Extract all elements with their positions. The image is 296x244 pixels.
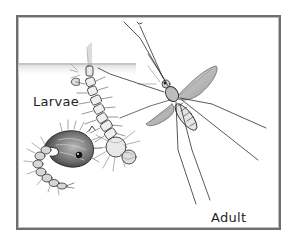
label-adult: Adult (211, 211, 246, 224)
label-larvae: Larvae (33, 95, 79, 108)
pupa (24, 120, 102, 195)
adult-mosquito (98, 22, 266, 204)
mosquito-life-cycle-illustration (0, 0, 296, 244)
